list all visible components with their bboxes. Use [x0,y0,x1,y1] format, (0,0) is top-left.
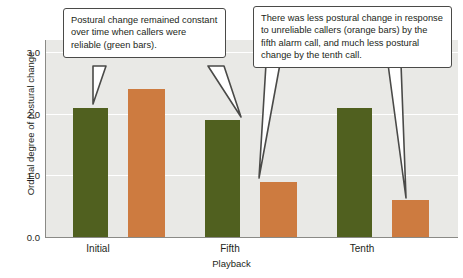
bar-chart-figure: 3.0 2.0 1.0 0.0 Ordinal degree of postur… [0,0,463,278]
callout-right: There was less postural change in respon… [253,6,452,68]
callout-left: Postural change remained constant over t… [63,8,226,58]
